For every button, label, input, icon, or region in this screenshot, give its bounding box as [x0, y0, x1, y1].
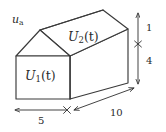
room-state-argument: (t)	[41, 68, 56, 83]
room-state-label: U1(t)	[25, 70, 56, 84]
house-diagram-svg	[0, 0, 166, 132]
house-diagram-figure: U2(t) U1(t) ua 1 4 5 10	[0, 0, 166, 132]
roof-height-dim-label: 1	[146, 23, 152, 33]
attic-state-label: U2(t)	[68, 31, 99, 45]
room-state-base: U	[25, 68, 36, 83]
attic-state-base: U	[68, 29, 79, 44]
house-solid	[16, 10, 128, 99]
wall-height-dim-label: 4	[146, 56, 152, 66]
attic-state-argument: (t)	[84, 29, 99, 44]
ambient-input-label: ua	[12, 14, 24, 27]
ambient-input-subscript: a	[19, 18, 23, 27]
depth-dim-label: 10	[110, 108, 123, 118]
front-width-dim-label: 5	[38, 116, 44, 126]
